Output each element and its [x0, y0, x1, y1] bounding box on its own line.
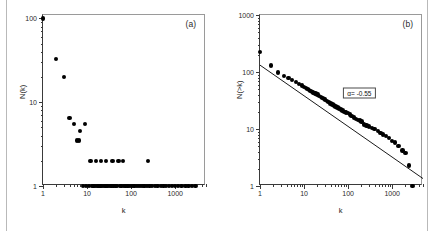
x-tick-minor — [419, 184, 420, 187]
y-tick-minor — [258, 142, 261, 143]
x-tick-minor — [325, 184, 326, 187]
x-tick-minor — [294, 184, 295, 187]
y-tick-minor — [41, 22, 44, 23]
panel-b: (b) 11010010001101001000α= -0.55 N(>k) k — [227, 0, 434, 231]
x-tick-minor — [382, 184, 383, 187]
x-tick-minor — [331, 184, 332, 187]
y-tick-minor — [258, 112, 261, 113]
x-tick-label: 10 — [300, 190, 308, 197]
y-tick-minor — [258, 78, 261, 79]
x-tick-minor — [379, 184, 380, 187]
y-tick-minor — [41, 146, 44, 147]
y-tick-minor — [258, 102, 261, 103]
data-point — [403, 151, 407, 155]
y-tick-label: 1 — [250, 183, 254, 190]
x-tick-minor — [206, 184, 207, 187]
data-point — [41, 16, 45, 20]
x-tick-label: 1 — [41, 190, 45, 197]
x-tick-label: 1000 — [167, 190, 183, 197]
x-tick-minor — [273, 184, 274, 187]
x-tick-minor — [77, 184, 78, 187]
x-tick-major — [43, 184, 44, 189]
y-axis-title-b: N(>k) — [235, 80, 244, 99]
y-tick-minor — [258, 38, 261, 39]
x-axis-title-b: k — [259, 206, 422, 215]
y-tick-label: 10 — [246, 126, 254, 133]
y-tick-minor — [41, 52, 44, 53]
y-tick-label: 1 — [33, 183, 37, 190]
y-tick-minor — [258, 75, 261, 76]
data-point — [121, 159, 125, 163]
x-tick-label: 10 — [83, 190, 91, 197]
x-tick-minor — [300, 184, 301, 187]
x-tick-major — [304, 184, 305, 189]
y-axis-title-a: N(k) — [18, 85, 27, 99]
y-tick-label: 1000 — [238, 12, 254, 19]
y-tick-label: 100 — [25, 15, 37, 22]
figure-left-rule — [6, 0, 7, 231]
y-tick-major — [256, 72, 261, 73]
fit-annotation: α= -0.55 — [343, 88, 375, 99]
y-tick-minor — [258, 85, 261, 86]
y-tick-minor — [258, 81, 261, 82]
y-tick-minor — [258, 152, 261, 153]
x-tick-label: 1 — [258, 190, 262, 197]
data-point — [146, 159, 150, 163]
x-axis-title-a: k — [42, 206, 205, 215]
data-point — [410, 184, 414, 188]
x-tick-label: 1000 — [384, 190, 400, 197]
data-point — [110, 159, 114, 163]
y-tick-minor — [258, 169, 261, 170]
y-tick-minor — [258, 138, 261, 139]
y-tick-minor — [258, 21, 261, 22]
y-tick-minor — [258, 24, 261, 25]
data-point — [77, 138, 81, 142]
data-point — [88, 159, 92, 163]
y-tick-minor — [258, 45, 261, 46]
x-tick-label: 100 — [125, 190, 137, 197]
y-tick-minor — [41, 127, 44, 128]
x-tick-minor — [375, 184, 376, 187]
x-tick-minor — [302, 184, 303, 187]
y-tick-major — [256, 15, 261, 16]
y-tick-minor — [258, 55, 261, 56]
x-tick-minor — [361, 184, 362, 187]
x-tick-minor — [74, 184, 75, 187]
y-tick-minor — [258, 28, 261, 29]
y-tick-minor — [41, 136, 44, 137]
data-point — [67, 116, 71, 120]
x-tick-minor — [70, 184, 71, 187]
x-tick-major — [260, 184, 261, 189]
y-tick-label: 10 — [29, 99, 37, 106]
x-tick-minor — [388, 184, 389, 187]
y-tick-minor — [41, 37, 44, 38]
x-tick-minor — [346, 184, 347, 187]
x-tick-major — [348, 184, 349, 189]
fit-line-b — [260, 15, 421, 184]
y-tick-minor — [41, 106, 44, 107]
y-tick-minor — [41, 121, 44, 122]
y-tick-minor — [41, 62, 44, 63]
data-point — [407, 163, 411, 167]
y-tick-minor — [258, 132, 261, 133]
y-tick-minor — [41, 110, 44, 111]
x-tick-minor — [64, 184, 65, 187]
y-tick-major — [256, 129, 261, 130]
y-tick-minor — [258, 18, 261, 19]
x-tick-minor — [317, 184, 318, 187]
x-tick-major — [392, 184, 393, 189]
y-tick-label: 100 — [242, 69, 254, 76]
y-tick-minor — [258, 159, 261, 160]
x-tick-minor — [56, 184, 57, 187]
x-tick-minor — [405, 184, 406, 187]
data-point — [193, 184, 197, 188]
x-tick-minor — [341, 184, 342, 187]
figure-root: (a) 1101001101001000 N(k) k (b) 11010010… — [0, 0, 434, 231]
x-tick-minor — [297, 184, 298, 187]
y-tick-major — [39, 102, 44, 103]
x-tick-minor — [281, 184, 282, 187]
y-tick-minor — [258, 32, 261, 33]
y-tick-minor — [41, 77, 44, 78]
y-tick-minor — [258, 89, 261, 90]
x-tick-minor — [369, 184, 370, 187]
